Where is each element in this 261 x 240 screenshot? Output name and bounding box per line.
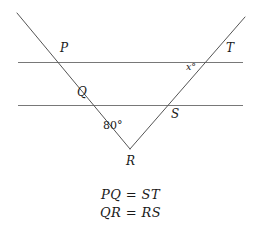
transversal-lines [18, 63, 243, 106]
point-label-q: Q [77, 86, 87, 98]
right-ray-rt [130, 17, 245, 149]
angle-rays [17, 13, 245, 149]
angle-label-80-degrees: 80° [103, 120, 123, 131]
angle-label-x-degrees: x° [186, 62, 196, 72]
given-conditions: PQ = ST QR = RS [0, 186, 261, 222]
point-label-t: T [226, 42, 234, 54]
point-label-s: S [171, 108, 179, 120]
point-label-r: R [126, 155, 135, 167]
given-condition-2: QR = RS [0, 204, 261, 222]
point-label-p: P [60, 42, 68, 54]
given-condition-1: PQ = ST [0, 186, 261, 204]
geometry-figure: P Q R S T 80° x° PQ = ST QR = RS [0, 0, 261, 240]
